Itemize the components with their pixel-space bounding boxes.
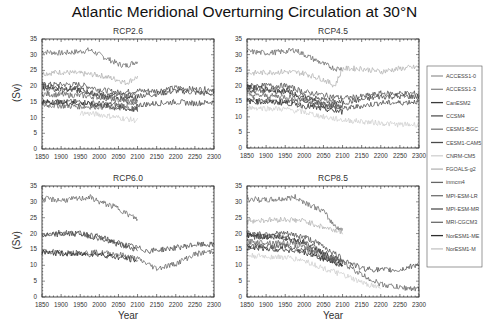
legend-item: CESM1-CAM5 <box>446 140 481 146</box>
x-tick-label: 2100 <box>131 153 146 160</box>
x-tick-label: 2300 <box>207 301 222 308</box>
y-tick-label: 25 <box>30 66 38 73</box>
panel-title: RCP2.6 <box>113 26 143 36</box>
x-tick-label: 2200 <box>374 301 389 308</box>
legend-item: CanESM2 <box>446 100 471 106</box>
y-tick-label: 20 <box>30 230 38 237</box>
legend-item: MPI-ESM-LR <box>446 193 478 199</box>
y-tick-label: 30 <box>30 51 38 58</box>
legend-item: ACCESS1-3 <box>446 86 476 92</box>
series-line <box>247 106 419 128</box>
x-tick-label: 2100 <box>336 301 351 308</box>
y-tick-label: 15 <box>30 245 38 252</box>
y-tick-label: 15 <box>235 245 243 252</box>
y-tick-label: 5 <box>238 128 242 135</box>
x-tick-label: 1950 <box>278 152 293 159</box>
x-tick-label: 2150 <box>150 153 165 160</box>
x-tick-label: 2150 <box>355 301 370 308</box>
y-tick-label: 20 <box>30 82 38 89</box>
y-tick-label: 10 <box>30 261 38 268</box>
plot-frame <box>42 186 214 297</box>
x-tick-label: 2050 <box>316 152 331 159</box>
panel-title: RCP4.5 <box>318 26 348 36</box>
x-tick-label: 1850 <box>35 301 50 308</box>
y-axis-label: (Sv) <box>11 84 22 102</box>
x-tick-label: 1900 <box>54 153 69 160</box>
y-tick-label: 5 <box>238 277 242 284</box>
series-line <box>247 48 343 71</box>
series-line <box>247 253 381 289</box>
y-tick-label: 0 <box>33 145 37 152</box>
y-tick-label: 20 <box>235 82 243 89</box>
chart-figure: RCP2.61850190019502000205021002150220022… <box>0 0 489 329</box>
x-tick-label: 2250 <box>188 301 203 308</box>
x-tick-label: 2200 <box>374 152 389 159</box>
y-tick-label: 0 <box>238 293 242 300</box>
panel-title: RCP6.0 <box>113 173 143 183</box>
x-tick-label: 2300 <box>412 152 427 159</box>
x-tick-label: 2100 <box>131 301 146 308</box>
y-tick-label: 10 <box>235 261 243 268</box>
x-tick-label: 1900 <box>54 301 69 308</box>
y-tick-label: 5 <box>33 129 37 136</box>
x-tick-label: 2050 <box>111 153 126 160</box>
series-line <box>42 48 138 68</box>
series-line <box>42 231 138 251</box>
x-tick-label: 2300 <box>207 153 222 160</box>
x-tick-label: 2000 <box>297 301 312 308</box>
x-tick-label: 1900 <box>259 301 274 308</box>
y-tick-label: 10 <box>30 114 38 121</box>
x-tick-label: 1950 <box>73 301 88 308</box>
y-tick-label: 35 <box>235 182 243 189</box>
y-tick-label: 15 <box>235 97 243 104</box>
y-tick-label: 30 <box>30 198 38 205</box>
x-tick-label: 2150 <box>355 152 370 159</box>
y-tick-label: 20 <box>235 230 243 237</box>
series-line <box>247 239 419 291</box>
x-axis-label: Year <box>118 310 139 321</box>
panel-rcp45: RCP4.51850190019502000205021002150220022… <box>235 26 427 159</box>
x-tick-label: 2050 <box>316 301 331 308</box>
series-line <box>42 70 138 85</box>
series-line <box>42 195 138 221</box>
y-tick-label: 35 <box>30 35 38 42</box>
series-line <box>247 194 343 230</box>
legend-item: FGOALS-g2 <box>446 166 476 172</box>
series-line <box>42 87 214 99</box>
legend: ACCESS1-0ACCESS1-3CanESM2CCSM4CESM1-BGCC… <box>427 66 482 267</box>
legend-item: CCSM4 <box>446 113 465 119</box>
panel-rcp85: RCP8.51850190019502000205021002150220022… <box>235 173 427 321</box>
x-tick-label: 1850 <box>240 301 255 308</box>
legend-item: CESM1-BGC <box>446 126 478 132</box>
x-tick-label: 2050 <box>111 301 126 308</box>
y-tick-label: 25 <box>235 66 243 73</box>
x-tick-label: 2150 <box>150 301 165 308</box>
y-tick-label: 30 <box>235 198 243 205</box>
legend-item: MRI-CGCM3 <box>446 219 477 225</box>
legend-item: ACCESS1-0 <box>446 73 476 79</box>
x-tick-label: 1900 <box>259 152 274 159</box>
x-tick-label: 1850 <box>240 152 255 159</box>
x-tick-label: 1950 <box>278 301 293 308</box>
y-tick-label: 30 <box>235 51 243 58</box>
x-tick-label: 2200 <box>169 301 184 308</box>
legend-item: CNRM-CM5 <box>446 153 475 159</box>
y-tick-label: 0 <box>33 293 37 300</box>
panel-rcp26: RCP2.61850190019502000205021002150220022… <box>11 26 221 160</box>
x-tick-label: 2300 <box>412 301 427 308</box>
legend-item: NorESM1-ME <box>446 233 480 239</box>
x-tick-label: 1950 <box>73 153 88 160</box>
legend-item: inmcm4 <box>446 179 465 185</box>
y-tick-label: 25 <box>30 214 38 221</box>
y-tick-label: 0 <box>238 144 242 151</box>
legend-item: MPI-ESM-MR <box>446 206 479 212</box>
x-axis-label: Year <box>323 310 344 321</box>
x-tick-label: 2250 <box>393 152 408 159</box>
y-tick-label: 10 <box>235 113 243 120</box>
panel-rcp60: RCP6.01850190019502000205021002150220022… <box>11 173 221 321</box>
legend-item: NorESM1-M <box>446 246 476 252</box>
y-tick-label: 25 <box>235 214 243 221</box>
y-tick-label: 5 <box>33 277 37 284</box>
x-tick-label: 2200 <box>169 153 184 160</box>
x-tick-label: 2000 <box>92 301 107 308</box>
